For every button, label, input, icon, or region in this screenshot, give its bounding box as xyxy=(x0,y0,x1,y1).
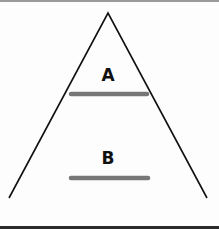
level-b-label: B xyxy=(102,148,115,168)
level-a-label: A xyxy=(101,65,115,85)
triangle-diagram: A B xyxy=(0,0,219,229)
diagram-frame: A B xyxy=(0,0,219,229)
bottom-border xyxy=(0,226,219,229)
triangle-outline xyxy=(9,13,207,198)
